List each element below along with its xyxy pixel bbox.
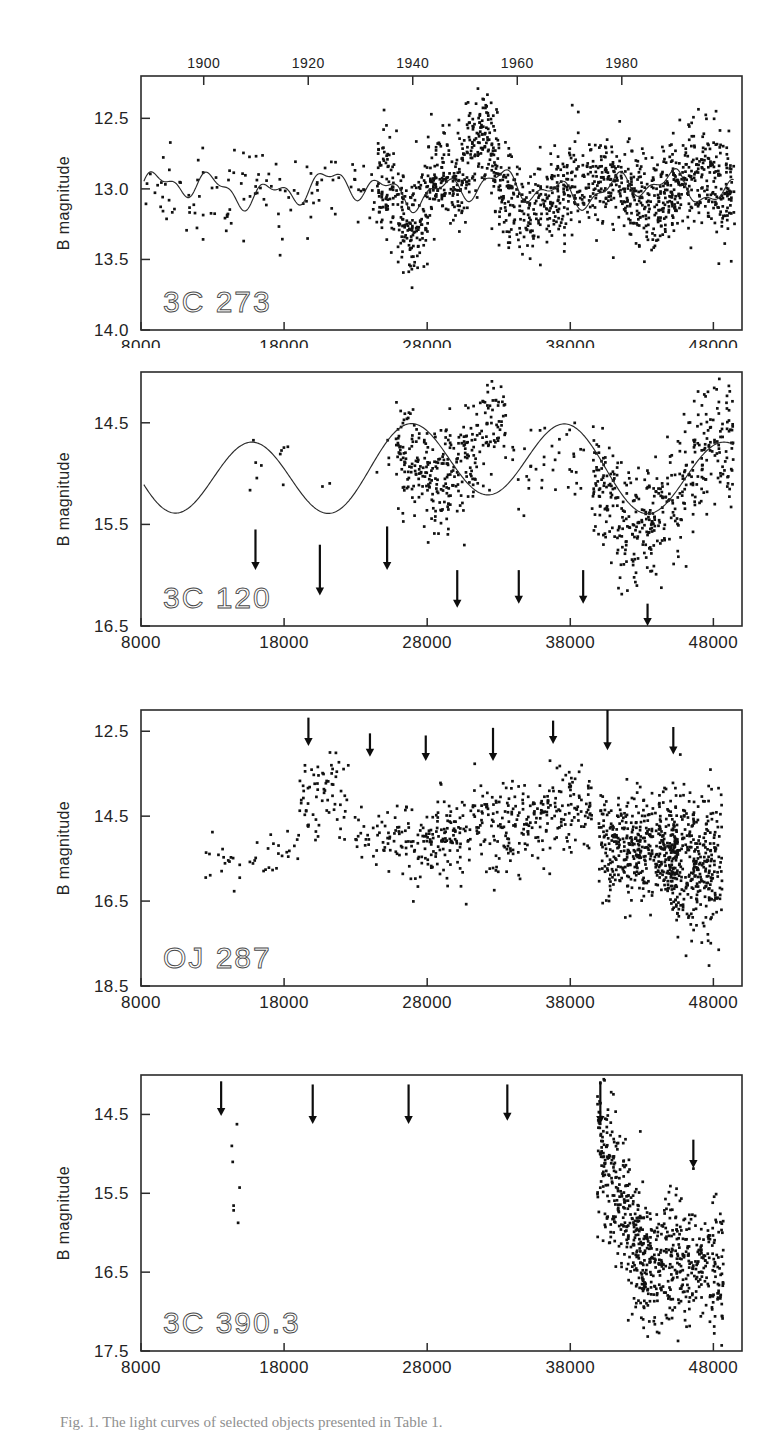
object-name-label: 3C 120 xyxy=(163,581,272,614)
x-tick-label: 38000 xyxy=(545,993,595,1012)
x-tick-label: 28000 xyxy=(402,993,452,1012)
figure-root: 80001800028000380004800012.513.013.514.0… xyxy=(0,0,775,1448)
y-tick-label: 12.5 xyxy=(94,722,129,741)
plot-area-3c-273: 80001800028000380004800012.513.013.514.0… xyxy=(0,18,775,348)
upper-limit-arrows xyxy=(251,526,651,626)
upper-limit-arrows xyxy=(217,1081,698,1168)
y-tick-label: 12.5 xyxy=(94,109,129,128)
y-tick-label: 15.5 xyxy=(94,1184,129,1203)
panel-3c273: 80001800028000380004800012.513.013.514.0… xyxy=(0,18,775,348)
data-points xyxy=(204,751,723,967)
panel-3c390-3: 80001800028000380004800014.515.516.517.5… xyxy=(0,1033,775,1393)
object-name-label: OJ 287 xyxy=(163,941,272,974)
x-tick-label: 48000 xyxy=(688,993,738,1012)
top-year-tick-label: 1920 xyxy=(292,55,325,71)
x-axis-title: J.D. 2400000 + xyxy=(366,1390,516,1393)
y-axis-title: B magnitude xyxy=(55,452,72,546)
x-tick-label: 48000 xyxy=(688,633,738,652)
x-tick-label: 18000 xyxy=(259,337,309,348)
plot-area-oj-287: 80001800028000380004800012.514.516.518.5… xyxy=(0,678,775,1033)
x-tick-label: 38000 xyxy=(545,633,595,652)
upper-limit-arrows xyxy=(304,710,677,761)
y-tick-label: 16.5 xyxy=(94,1263,129,1282)
y-tick-label: 15.5 xyxy=(94,515,129,534)
y-tick-label: 14.0 xyxy=(94,321,129,340)
x-tick-label: 38000 xyxy=(545,337,595,348)
object-name-label: 3C 390.3 xyxy=(163,1306,301,1339)
y-tick-label: 14.5 xyxy=(94,1105,129,1124)
data-points xyxy=(249,378,735,596)
x-tick-label: 48000 xyxy=(688,1358,738,1377)
plot-area-3c-120: 80001800028000380004800014.515.516.5B ma… xyxy=(0,348,775,678)
x-tick-label: 28000 xyxy=(402,337,452,348)
y-tick-label: 14.5 xyxy=(94,807,129,826)
top-year-tick-label: 1960 xyxy=(501,55,534,71)
x-tick-label: 18000 xyxy=(259,993,309,1012)
plot-area-3c-390-3: 80001800028000380004800014.515.516.517.5… xyxy=(0,1033,775,1393)
object-name-label: 3C 273 xyxy=(163,285,272,318)
y-tick-label: 13.0 xyxy=(94,180,129,199)
x-tick-label: 48000 xyxy=(688,337,738,348)
y-tick-label: 16.5 xyxy=(94,617,129,636)
y-axis-title: B magnitude xyxy=(55,801,72,895)
x-tick-label: 18000 xyxy=(259,1358,309,1377)
panel-oj287: 80001800028000380004800012.514.516.518.5… xyxy=(0,678,775,1033)
y-tick-label: 18.5 xyxy=(94,977,129,996)
top-year-tick-label: 1940 xyxy=(396,55,429,71)
top-year-tick-label: 1900 xyxy=(187,55,220,71)
y-tick-label: 13.5 xyxy=(94,250,129,269)
x-tick-label: 38000 xyxy=(545,1358,595,1377)
y-axis-title: B magnitude xyxy=(55,1166,72,1260)
y-axis-title: B magnitude xyxy=(55,156,72,250)
data-points xyxy=(230,1078,724,1347)
x-tick-label: 28000 xyxy=(402,633,452,652)
x-tick-label: 18000 xyxy=(259,633,309,652)
y-tick-label: 16.5 xyxy=(94,892,129,911)
x-tick-label: 28000 xyxy=(402,1358,452,1377)
figure-caption: Fig. 1. The light curves of selected obj… xyxy=(60,1412,720,1446)
y-tick-label: 14.5 xyxy=(94,414,129,433)
top-year-tick-label: 1980 xyxy=(605,55,638,71)
model-fit-curve xyxy=(144,424,734,514)
y-tick-label: 17.5 xyxy=(94,1342,129,1361)
panel-3c120: 80001800028000380004800014.515.516.5B ma… xyxy=(0,348,775,678)
